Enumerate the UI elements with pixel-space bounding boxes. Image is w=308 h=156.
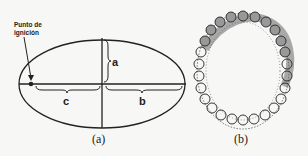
- ignition-arrow: [24, 37, 31, 78]
- arrow-head-icon: [28, 75, 34, 81]
- ignition-label-line1: Punto de: [14, 21, 42, 28]
- caption-a: (a): [92, 132, 105, 146]
- ignition-point: [29, 82, 34, 87]
- caption-b: (b): [234, 132, 248, 146]
- fire-spread-diagram: Punto de ignición a c b (a): [0, 0, 308, 156]
- label-c: c: [63, 95, 69, 107]
- panel-b-wavelet-model: (b): [177, 1, 308, 146]
- label-b: b: [139, 95, 146, 107]
- brace-a: [104, 40, 111, 82]
- wavelets: [194, 11, 292, 125]
- label-a: a: [112, 56, 119, 68]
- brace-b: [106, 86, 182, 93]
- ignition-label-line2: ignición: [14, 29, 39, 37]
- panel-a-ellipse-model: Punto de ignición a c b (a): [14, 21, 186, 146]
- brace-c: [36, 86, 100, 93]
